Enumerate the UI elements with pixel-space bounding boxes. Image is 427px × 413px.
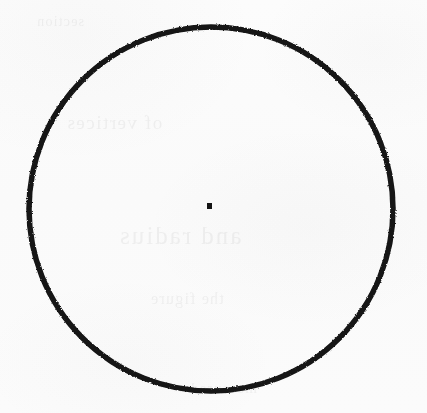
center-point-dot: [207, 203, 212, 209]
scanned-figure-page: of vertices and radius the figure measur…: [0, 0, 427, 413]
circle-figure-svg: [0, 0, 427, 413]
